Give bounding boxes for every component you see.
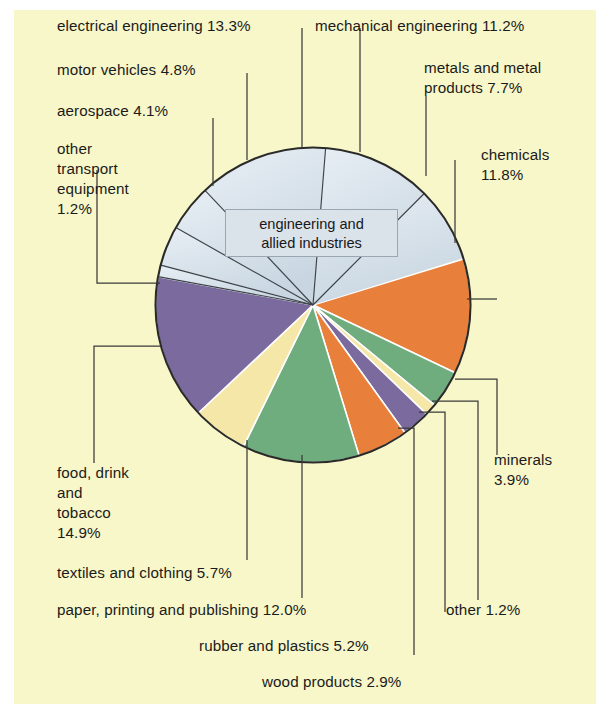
label-paper-printing-publishing: paper, printing and publishing 12.0%	[57, 600, 306, 621]
label-chemicals-line1: chemicals	[481, 145, 549, 166]
label-electrical-engineering: electrical engineering 13.3%	[57, 16, 251, 37]
label-food-line2: and	[57, 483, 83, 504]
label-aerospace: aerospace 4.1%	[57, 101, 168, 122]
label-motor-vehicles: motor vehicles 4.8%	[57, 60, 196, 81]
label-food-line3: tobacco	[57, 503, 111, 524]
label-other-transport-line4: 1.2%	[57, 199, 92, 220]
label-textiles-and-clothing: textiles and clothing 5.7%	[57, 563, 232, 584]
label-food-line4: 14.9%	[57, 523, 101, 544]
label-other-transport-line3: equipment	[57, 179, 129, 200]
label-wood-products: wood products 2.9%	[262, 672, 401, 693]
center-label-line1: engineering and	[236, 215, 387, 234]
label-other-transport-line2: transport	[57, 159, 118, 180]
label-other: other 1.2%	[446, 600, 520, 621]
label-minerals-line1: minerals	[494, 450, 552, 471]
label-chemicals-line2: 11.8%	[481, 165, 523, 186]
center-label-box: engineering and allied industries	[225, 209, 398, 257]
label-minerals-line2: 3.9%	[494, 470, 529, 491]
label-other-transport-line1: other	[57, 139, 92, 160]
label-metals-line2: products 7.7%	[424, 78, 522, 99]
label-metals-line1: metals and metal	[424, 58, 541, 79]
center-label-line2: allied industries	[236, 234, 387, 253]
label-food-line1: food, drink	[57, 463, 129, 484]
label-rubber-and-plastics: rubber and plastics 5.2%	[199, 636, 369, 657]
figure-root: engineering and allied industries electr…	[0, 0, 608, 714]
label-mechanical-engineering: mechanical engineering 11.2%	[315, 16, 524, 37]
